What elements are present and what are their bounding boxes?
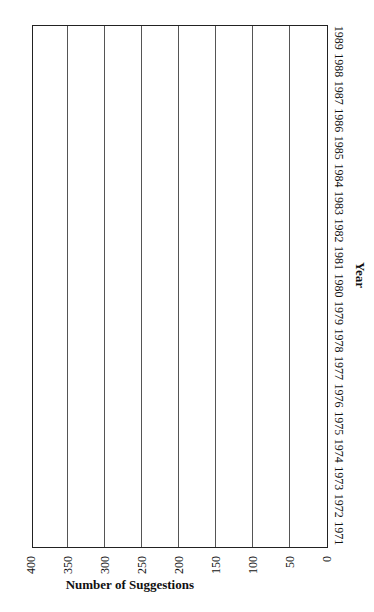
x-tick-label: 1982 [331, 218, 346, 242]
bar-shadow [154, 387, 327, 407]
y-tick-label: 50 [283, 556, 298, 568]
bar-1981 [232, 250, 327, 270]
x-tick-label: 1987 [331, 81, 346, 105]
bar-shadow [205, 470, 327, 490]
bar-face [86, 470, 205, 490]
bar-face [101, 442, 213, 462]
x-tick-label: 1979 [331, 301, 346, 325]
bar-1972 [175, 498, 327, 518]
bar-1979 [219, 305, 327, 325]
bar-shadow [163, 30, 327, 50]
plot-area [32, 25, 328, 548]
bar-1985 [125, 140, 327, 160]
y-axis-label: Number of Suggestions [66, 577, 194, 593]
chart-stage: 050100150200250300350400 198919881987198… [0, 0, 374, 612]
bar-face [0, 525, 153, 545]
bar-1976 [153, 387, 327, 407]
bar-face [117, 415, 221, 435]
bar-shadow [104, 57, 327, 77]
x-tick-label: 1973 [331, 466, 346, 490]
bar-face [109, 277, 216, 297]
x-tick-label: 1977 [331, 356, 346, 380]
bar-face [74, 112, 199, 132]
bar-1974 [211, 442, 327, 462]
x-tick-label: 1974 [331, 439, 346, 463]
bar-face [0, 57, 104, 77]
bar-shadow [153, 525, 327, 545]
x-tick-label: 1975 [331, 411, 346, 435]
x-tick-label: 1980 [331, 274, 346, 298]
y-tick-label: 200 [172, 556, 187, 574]
bar-face [1, 30, 162, 50]
x-tick-label: 1976 [331, 384, 346, 408]
y-tick-label: 100 [246, 556, 261, 574]
bar-shadow [220, 415, 327, 435]
bar-face [28, 195, 176, 215]
x-tick-label: 1989 [331, 26, 346, 50]
bar-shadow [221, 222, 327, 242]
bar-face [0, 167, 148, 187]
x-axis-label: Year [352, 262, 368, 288]
y-tick-label: 300 [98, 556, 113, 574]
y-tick-label: 0 [320, 556, 335, 562]
bar-shadow [233, 250, 327, 270]
bar-1973 [204, 470, 327, 490]
bar-face [0, 85, 60, 105]
y-tick-label: 250 [135, 556, 150, 574]
x-tick-label: 1972 [331, 494, 346, 518]
bar-1971 [152, 525, 327, 545]
bar-shadow [198, 360, 327, 380]
y-tick-label: 400 [24, 556, 39, 574]
bar-shadow [217, 277, 327, 297]
bar-1987 [59, 85, 327, 105]
bar-face [72, 360, 198, 380]
y-tick-label: 350 [61, 556, 76, 574]
bar-1978 [227, 332, 327, 352]
x-tick-label: 1984 [331, 163, 346, 187]
bar-shadow [60, 85, 327, 105]
bar-1983 [175, 195, 327, 215]
bar-1982 [220, 222, 327, 242]
bar-face [118, 222, 221, 242]
x-tick-label: 1971 [331, 521, 346, 545]
bar-1975 [219, 415, 327, 435]
bar-1988 [103, 57, 327, 77]
bar-shadow [176, 195, 327, 215]
bar-shadow [126, 140, 327, 160]
x-tick-label: 1988 [331, 53, 346, 77]
bar-shadow [148, 167, 327, 187]
x-tick-label: 1983 [331, 191, 346, 215]
bar-shadow [212, 442, 327, 462]
bar-face [28, 498, 176, 518]
bar-face [132, 332, 228, 352]
bar-shadow [176, 498, 327, 518]
bar-1989 [162, 30, 327, 50]
bar-face [117, 305, 221, 325]
bar-shadow [199, 112, 327, 132]
x-tick-label: 1978 [331, 329, 346, 353]
x-tick-label: 1986 [331, 108, 346, 132]
bar-1980 [216, 277, 327, 297]
y-tick-label: 150 [209, 556, 224, 574]
bar-1984 [147, 167, 327, 187]
bar-1986 [198, 112, 327, 132]
bar-face [142, 250, 233, 270]
bar-face [0, 140, 126, 160]
bar-shadow [228, 332, 327, 352]
x-tick-label: 1981 [331, 246, 346, 270]
bar-1977 [197, 360, 327, 380]
x-tick-label: 1985 [331, 136, 346, 160]
bar-shadow [220, 305, 327, 325]
bar-face [0, 387, 154, 407]
